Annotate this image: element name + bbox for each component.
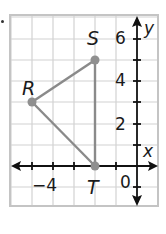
y-tick-label-4: 4 — [115, 72, 126, 89]
y-tick-label-6: 6 — [115, 30, 126, 47]
point-label-T: T — [87, 178, 99, 197]
x-axis-label: x — [143, 143, 153, 160]
y-axis-label: y — [144, 20, 154, 37]
point-T — [91, 162, 100, 171]
segment-TR — [32, 102, 95, 166]
coordinate-plane-figure: S R T 6 4 2 −4 0 y x — [0, 0, 166, 234]
x-axis — [11, 161, 158, 171]
triangle-RST — [32, 60, 95, 166]
x-tick-label-neg4: −4 — [32, 177, 57, 194]
point-label-S: S — [87, 29, 99, 48]
y-tick-label-2: 2 — [115, 116, 126, 133]
point-S — [91, 56, 100, 65]
point-label-R: R — [22, 79, 35, 98]
x-tick-label-0: 0 — [120, 174, 131, 191]
y-axis — [132, 16, 142, 206]
coordinate-plane-svg — [0, 0, 166, 234]
